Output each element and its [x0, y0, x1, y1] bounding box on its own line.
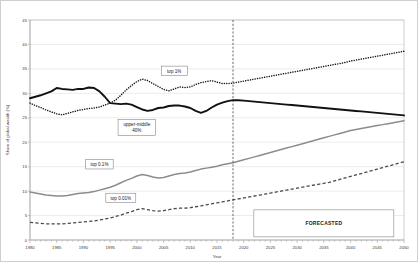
chart-svg: 051015202530354045 198019851990199520002…: [0, 0, 418, 262]
axis-ticks: [30, 240, 404, 243]
y-tick-label: 35: [22, 66, 27, 71]
x-tick-label: 2035: [319, 245, 329, 250]
y-axis-title: Share of global wealth (%): [5, 104, 10, 155]
x-tick-label: 1980: [25, 245, 35, 250]
annotation-label-upper-middle: 40%: [132, 128, 141, 133]
x-axis-tick-labels: 1980198519901995200020052010201520202025…: [25, 245, 409, 250]
y-axis-tick-labels: 051015202530354045: [22, 18, 27, 243]
y-tick-label: 25: [22, 115, 27, 120]
x-tick-label: 1985: [52, 245, 62, 250]
x-tick-label: 2010: [186, 245, 196, 250]
x-tick-label: 2040: [346, 245, 356, 250]
x-tick-label: 1995: [105, 245, 115, 250]
y-tick-label: 20: [22, 140, 27, 145]
series-line-upper-middle-40: [30, 87, 404, 115]
x-tick-label: 2050: [399, 245, 409, 250]
x-tick-label: 2025: [266, 245, 276, 250]
y-tick-label: 5: [25, 213, 28, 218]
x-tick-label: 2005: [159, 245, 169, 250]
annotation-label-top01: top 0.1%: [90, 162, 108, 167]
x-tick-label: 2030: [292, 245, 302, 250]
y-tick-label: 10: [22, 189, 27, 194]
annotation-label-forecast: FORECASTED: [305, 220, 342, 226]
plot-frame: [30, 20, 404, 240]
y-tick-label: 0: [25, 238, 28, 243]
wealth-share-chart: 051015202530354045 198019851990199520002…: [0, 0, 418, 262]
annotation-label-top001: top 0.01%: [110, 196, 131, 201]
x-tick-label: 2045: [373, 245, 383, 250]
annotation-label-top1: top 1%: [167, 69, 181, 74]
x-axis-title: Year: [213, 254, 222, 259]
y-tick-label: 15: [22, 164, 27, 169]
data-series-group: [30, 51, 404, 224]
x-tick-label: 1990: [79, 245, 89, 250]
y-tick-label: 40: [22, 42, 27, 47]
series-line-top-0-1: [30, 121, 404, 196]
annotation-label-upper-middle: upper-middle: [123, 122, 150, 127]
x-tick-label: 2000: [132, 245, 142, 250]
x-tick-label: 2020: [239, 245, 249, 250]
gridlines: [28, 20, 404, 240]
y-tick-label: 45: [22, 18, 27, 23]
x-tick-label: 2015: [212, 245, 222, 250]
y-tick-label: 30: [22, 91, 27, 96]
